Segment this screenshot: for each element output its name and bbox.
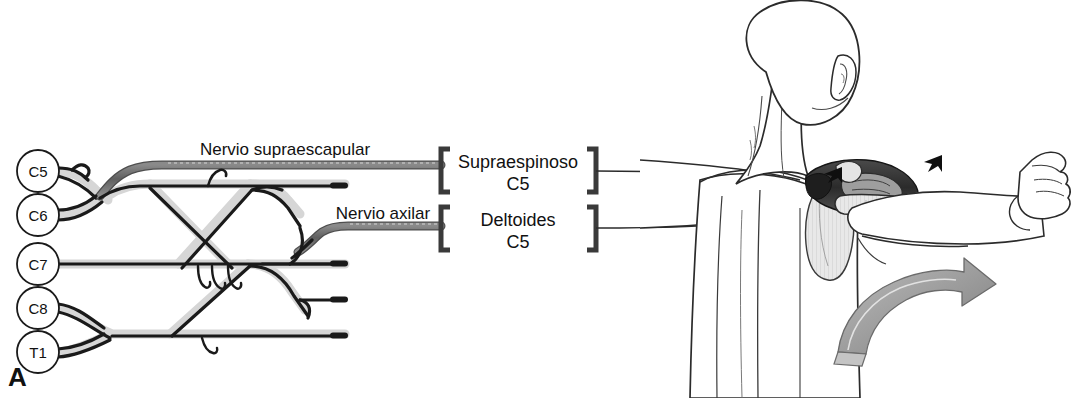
bracket-right-deltoides [587, 207, 596, 250]
root-label-c7: C7 [28, 256, 47, 273]
figure-brachial-plexus-c5: C5 C6 C7 C8 T1 Nervio supraescapular Ner… [0, 0, 1076, 398]
bracket-left-supraespinoso [441, 149, 450, 192]
figure-canvas: C5 C6 C7 C8 T1 Nervio supraescapular Ner… [0, 0, 1076, 398]
root-label-c5: C5 [28, 163, 47, 180]
label-nervio-axilar: Nervio axilar [336, 204, 431, 223]
root-label-t1: T1 [29, 344, 47, 361]
lower-trunk-twig [202, 338, 217, 353]
anatomy-illustration [640, 0, 1070, 398]
target-muscle-supraespinoso: Supraespinoso [458, 152, 578, 172]
plexus-schematic: C5 C6 C7 C8 T1 Nervio supraescapular Ner… [17, 140, 441, 373]
bracket-left-deltoides [441, 207, 450, 250]
target-root-deltoides: C5 [506, 232, 529, 252]
near-arm [848, 192, 1044, 264]
nerve-axilar-path [298, 224, 441, 252]
root-label-c6: C6 [28, 207, 47, 224]
target-labels: Supraespinoso C5 Deltoides C5 [458, 152, 578, 252]
head [746, 0, 859, 125]
target-muscle-deltoides: Deltoides [480, 210, 555, 230]
root-label-c8: C8 [28, 300, 47, 317]
bracket-right-supraespinoso [587, 149, 596, 192]
panel-letter: A [8, 362, 27, 392]
label-nervio-supraescapular: Nervio supraescapular [200, 140, 370, 159]
target-root-supraespinoso: C5 [506, 174, 529, 194]
abduction-motion-arrow [834, 258, 996, 366]
contraction-arrow-lateral [924, 155, 942, 172]
